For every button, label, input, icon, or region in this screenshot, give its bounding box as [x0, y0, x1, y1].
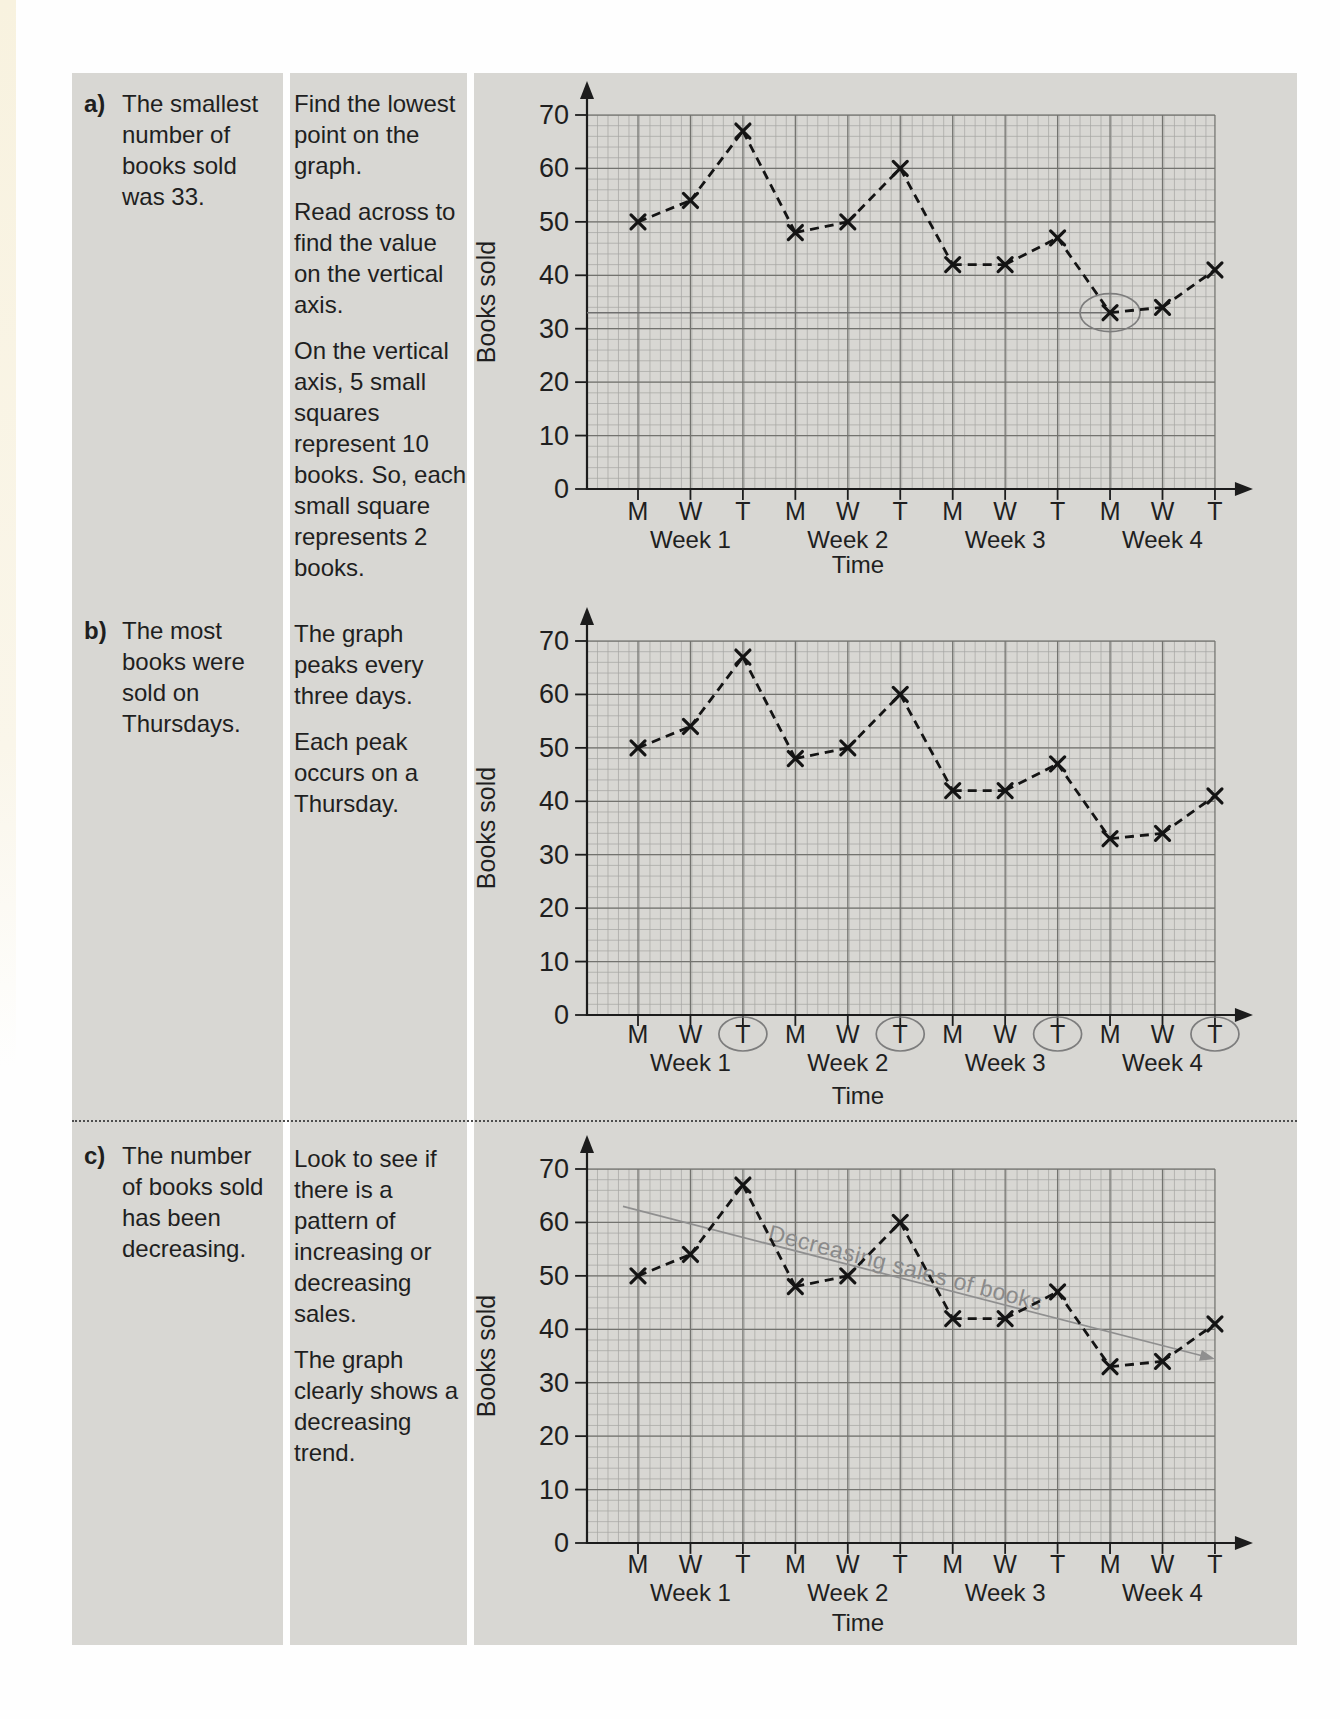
trend-label: Decreasing sales of books — [766, 1220, 1046, 1316]
books-sold-chart-a: 010203040506070MWTMWTMWTMWTWeek 1Week 2W… — [473, 73, 1297, 583]
day-label: W — [1151, 1550, 1175, 1578]
y-tick-label: 10 — [539, 421, 569, 451]
day-label: M — [785, 497, 806, 525]
y-axis-title: Books sold — [473, 241, 500, 363]
day-label: M — [1100, 1550, 1121, 1578]
y-axis-title: Books sold — [473, 1295, 500, 1417]
y-tick-label: 50 — [539, 207, 569, 237]
y-tick-label: 50 — [539, 1261, 569, 1291]
books-sold-chart-b-svg: 010203040506070MWTMWTMWTMWTWeek 1Week 2W… — [473, 565, 1297, 1122]
y-tick-label: 30 — [539, 1368, 569, 1398]
explanation-paragraph: Find the lowest point on the graph. — [294, 88, 468, 181]
week-label: Week 1 — [650, 1049, 731, 1076]
week-label: Week 1 — [650, 1579, 731, 1606]
day-label: W — [993, 1020, 1017, 1048]
y-tick-label: 20 — [539, 367, 569, 397]
explanation-cell-b: The graph peaks every three days. Each p… — [294, 618, 468, 834]
x-axis-title: Time — [832, 1609, 884, 1636]
y-tick-label: 10 — [539, 947, 569, 977]
page-edge-strip — [0, 0, 16, 1066]
day-label: W — [679, 1020, 703, 1048]
x-axis-arrow-icon — [1235, 1008, 1253, 1022]
day-label: W — [836, 1020, 860, 1048]
day-label: T — [1050, 1020, 1065, 1048]
day-label: T — [735, 1020, 750, 1048]
week-label: Week 3 — [965, 1579, 1046, 1606]
day-label: M — [628, 1550, 649, 1578]
answer-text-c: The number of books sold has been decrea… — [122, 1140, 276, 1264]
y-tick-label: 60 — [539, 1207, 569, 1237]
day-label: W — [1151, 497, 1175, 525]
answer-text-a: The smallest number of books sold was 33… — [122, 88, 276, 212]
row-divider-dotted — [72, 1120, 1297, 1122]
week-label: Week 4 — [1122, 1579, 1203, 1606]
day-label: T — [735, 1550, 750, 1578]
week-label: Week 1 — [650, 526, 731, 553]
x-axis-title: Time — [832, 1082, 884, 1109]
worked-example-panel: a) The smallest number of books sold was… — [72, 73, 1297, 1645]
day-label: T — [1050, 497, 1065, 525]
day-label: W — [993, 497, 1017, 525]
week-label: Week 3 — [965, 1049, 1046, 1076]
explanation-paragraph: Read across to find the value on the ver… — [294, 196, 468, 320]
y-axis-arrow-icon — [580, 607, 594, 625]
day-label: T — [893, 1550, 908, 1578]
trend-arrow-icon — [1199, 1350, 1216, 1364]
answer-cell-b: b) The most books were sold on Thursdays… — [84, 615, 276, 739]
answer-cell-a: a) The smallest number of books sold was… — [84, 88, 276, 212]
explanation-paragraph: Each peak occurs on a Thursday. — [294, 726, 468, 819]
y-tick-label: 20 — [539, 1421, 569, 1451]
week-label: Week 2 — [807, 1579, 888, 1606]
explanation-cell-a: Find the lowest point on the graph. Read… — [294, 88, 468, 598]
y-tick-label: 30 — [539, 840, 569, 870]
part-label-a: a) — [84, 88, 114, 212]
y-axis-arrow-icon — [580, 81, 594, 99]
books-sold-chart-c-svg: 010203040506070MWTMWTMWTMWTWeek 1Week 2W… — [473, 1122, 1297, 1645]
day-label: W — [993, 1550, 1017, 1578]
day-label: M — [942, 1020, 963, 1048]
day-label: T — [893, 497, 908, 525]
y-tick-label: 0 — [554, 1000, 569, 1030]
y-tick-label: 10 — [539, 1475, 569, 1505]
day-label: M — [942, 1550, 963, 1578]
y-tick-label: 0 — [554, 474, 569, 504]
day-label: T — [735, 497, 750, 525]
day-label: M — [628, 497, 649, 525]
week-label: Week 3 — [965, 526, 1046, 553]
day-label: W — [679, 497, 703, 525]
y-tick-label: 30 — [539, 314, 569, 344]
answer-cell-c: c) The number of books sold has been dec… — [84, 1140, 276, 1264]
day-label: M — [628, 1020, 649, 1048]
day-label: W — [836, 497, 860, 525]
answer-text-b: The most books were sold on Thursdays. — [122, 615, 276, 739]
x-axis-arrow-icon — [1235, 482, 1253, 496]
y-tick-label: 40 — [539, 786, 569, 816]
explanation-paragraph: The graph clearly shows a decreasing tre… — [294, 1344, 468, 1468]
y-axis-title: Books sold — [473, 767, 500, 889]
books-sold-chart-a-svg: 010203040506070MWTMWTMWTMWTWeek 1Week 2W… — [473, 73, 1297, 583]
y-tick-label: 0 — [554, 1528, 569, 1558]
y-tick-label: 70 — [539, 1154, 569, 1184]
week-label: Week 2 — [807, 1049, 888, 1076]
y-tick-label: 70 — [539, 100, 569, 130]
column-divider-1 — [283, 73, 290, 1645]
books-sold-chart-b: 010203040506070MWTMWTMWTMWTWeek 1Week 2W… — [473, 565, 1297, 1122]
day-label: W — [1151, 1020, 1175, 1048]
part-label-c: c) — [84, 1140, 114, 1264]
y-tick-label: 40 — [539, 1314, 569, 1344]
day-label: M — [785, 1020, 806, 1048]
day-label: T — [893, 1020, 908, 1048]
y-tick-label: 50 — [539, 733, 569, 763]
week-label: Week 2 — [807, 526, 888, 553]
day-label: W — [679, 1550, 703, 1578]
explanation-cell-c: Look to see if there is a pattern of inc… — [294, 1143, 468, 1483]
day-label: M — [942, 497, 963, 525]
day-label: M — [1100, 497, 1121, 525]
y-tick-label: 20 — [539, 893, 569, 923]
explanation-paragraph: On the vertical axis, 5 small squares re… — [294, 335, 468, 583]
part-label-b: b) — [84, 615, 114, 739]
x-axis-arrow-icon — [1235, 1536, 1253, 1550]
y-tick-label: 70 — [539, 626, 569, 656]
day-label: W — [836, 1550, 860, 1578]
y-tick-label: 60 — [539, 679, 569, 709]
